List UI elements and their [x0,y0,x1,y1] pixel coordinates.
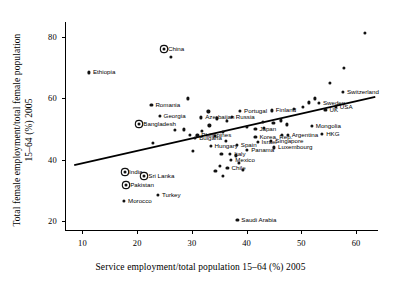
x-axis-tick-label: 10 [78,238,87,248]
data-point-label: Philippines [201,132,231,138]
y-axis-tick [62,221,66,222]
data-point-label: Mongolia [316,123,341,129]
data-point-label: USA [340,104,353,110]
data-point-india [124,170,127,173]
data-point-label: Saudi Arabia [241,217,276,223]
x-axis-tick-label: 20 [133,238,142,248]
x-axis-tick [356,230,357,234]
x-axis-tick [137,230,138,234]
data-point-label: Sri Lanka [148,173,174,179]
data-point-label: Russia [236,114,255,120]
data-point-label: Morocco [128,198,152,204]
x-axis-tick-label: 50 [297,238,306,248]
y-axis-tick [62,98,66,99]
scatter-chart-figure: Total female employment/total female pop… [0,0,401,292]
data-point-label: Turkey [162,192,181,198]
data-point-label: Bangladesh [143,121,176,127]
data-point-label: Georgia [164,113,186,119]
x-axis-tick [301,230,302,234]
x-axis-tick [82,230,83,234]
x-axis-tick [247,230,248,234]
x-axis-line [65,230,378,231]
y-axis-title-line: 15–64 (%) 2005 [23,15,35,245]
data-point-bangladesh [138,123,141,126]
data-point-label: HKG [326,131,339,137]
data-point-label: India [129,169,142,175]
x-axis-tick-label: 30 [187,238,196,248]
data-point-china [162,47,165,50]
y-axis-tick [62,160,66,161]
plot-area: 20406080102030405060EthiopiaChinaRomania… [66,22,378,230]
y-axis-title: Total female employment/total female pop… [11,15,35,245]
data-point-sri-lanka [143,175,146,178]
y-axis-tick-label: 20 [48,216,57,226]
data-point-label: Argentina [292,132,319,138]
x-axis-tick [192,230,193,234]
y-axis-tick-label: 80 [48,32,57,42]
y-axis-tick-label: 60 [48,93,57,103]
x-axis-tick-label: 60 [352,238,361,248]
x-axis-title: Service employment/total population 15–6… [0,262,401,272]
data-point-label: China [168,46,184,52]
x-axis-tick-label: 40 [242,238,251,248]
data-point-label: Romania [155,101,180,107]
y-axis-tick-label: 40 [48,155,57,165]
y-axis-title-line: Total female employment/total female pop… [11,15,23,245]
data-point-label: Panama [251,146,274,152]
data-point-label: Ethiopia [93,69,115,75]
data-point-pakistan [125,183,128,186]
data-point-label: Pakistan [130,182,154,188]
data-point-label: Luxembourg [278,144,312,150]
y-axis-tick [62,37,66,38]
data-point-label: Switzerland [347,89,379,95]
